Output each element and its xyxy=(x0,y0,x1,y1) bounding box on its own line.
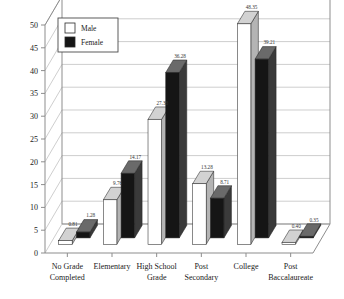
x-axis-category-label: College xyxy=(234,262,259,271)
bar-value-label: 9.76 xyxy=(113,180,122,186)
bar-front-face xyxy=(282,242,296,244)
bar-female xyxy=(210,186,231,238)
bar-chart: 05101520253035404550 0.811.289.7614.1727… xyxy=(0,0,344,299)
bar-value-label: 13.28 xyxy=(201,164,213,170)
y-axis-tick-label: 50 xyxy=(30,21,38,30)
bar-value-label: 27.38 xyxy=(156,100,168,106)
bar-value-label: 14.17 xyxy=(130,154,142,160)
bar-value-label: 0.81 xyxy=(68,221,77,227)
bar-side-face xyxy=(135,161,143,238)
legend-swatch-female xyxy=(65,37,75,47)
bar-female xyxy=(166,60,187,238)
x-axis-category-label: Post xyxy=(284,262,299,271)
y-axis-tick-label: 35 xyxy=(30,89,38,98)
y-axis-tick-label: 30 xyxy=(30,112,38,121)
bar-side-face xyxy=(179,60,187,238)
chart-legend: MaleFemale xyxy=(58,18,118,52)
bar-front-face xyxy=(59,241,73,245)
bar-front-face xyxy=(148,119,162,244)
y-axis-tick-label: 25 xyxy=(30,135,38,144)
bar-front-face xyxy=(121,173,135,238)
y-axis-tick-label: 5 xyxy=(34,226,38,235)
x-axis-category-label: Elementary xyxy=(94,262,131,271)
legend-label-male: Male xyxy=(81,24,97,33)
bar-front-face xyxy=(255,59,269,238)
chart-canvas: 05101520253035404550 0.811.289.7614.1727… xyxy=(0,0,344,299)
bar-side-face xyxy=(269,47,277,238)
x-axis-category-label: Grade xyxy=(147,273,167,282)
bar-value-label: 0.35 xyxy=(309,217,318,223)
x-axis-category-label: Baccalaureate xyxy=(268,273,313,282)
bar-value-label: 48.35 xyxy=(246,4,258,10)
bar-front-face xyxy=(237,24,251,244)
bar-front-face xyxy=(166,72,180,237)
bar-value-label: 1.28 xyxy=(86,212,95,218)
legend-label-female: Female xyxy=(81,38,104,47)
y-axis-tick-label: 20 xyxy=(30,158,38,167)
bar-value-label: 0.40 xyxy=(292,223,301,229)
x-axis-category-label: No Grade xyxy=(52,262,84,271)
bar-front-face xyxy=(103,200,117,245)
x-axis-category-label: High School xyxy=(137,262,178,271)
bar-value-label: 39.21 xyxy=(264,39,276,45)
bar-value-label: 8.71 xyxy=(220,179,229,185)
y-axis-tick-label: 15 xyxy=(30,181,38,190)
bar-front-face xyxy=(193,184,207,245)
y-axis-tick-label: 0 xyxy=(34,249,38,258)
bar-value-label: 36.28 xyxy=(174,53,186,59)
x-axis-category-label: Post xyxy=(194,262,209,271)
bar-front-face xyxy=(300,236,314,238)
y-axis-tick-label: 10 xyxy=(30,203,38,212)
bar-female xyxy=(121,161,142,238)
x-axis-category-label: Secondary xyxy=(184,273,218,282)
legend-swatch-male xyxy=(65,23,75,33)
bar-female xyxy=(255,47,276,238)
x-axis-category-label: Completed xyxy=(50,273,85,282)
bar-front-face xyxy=(210,198,224,238)
y-axis-tick-label: 45 xyxy=(30,44,38,53)
y-axis-tick-label: 40 xyxy=(30,67,38,76)
bar-front-face xyxy=(76,232,90,238)
